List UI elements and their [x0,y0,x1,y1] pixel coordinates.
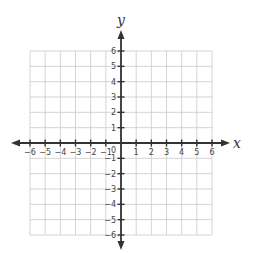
origin-label: 0 [111,146,116,155]
y-tick-label: 4 [111,78,116,87]
x-axis-label: x [233,135,241,151]
x-tick-label: 4 [179,148,184,157]
y-tick-label: −1 [104,154,116,163]
y-axis-up-arrow-icon [118,30,125,39]
x-tick-label: −5 [39,148,51,157]
x-tick-label: 1 [134,148,139,157]
x-tick-label: 6 [209,148,214,157]
y-tick-label: 5 [111,62,116,71]
y-tick-label: −3 [104,185,116,194]
y-tick-label: −4 [104,200,116,209]
x-tick-label: −2 [85,148,97,157]
y-tick-label: −6 [104,231,116,240]
x-tick-label: 3 [164,148,169,157]
x-tick-label: 5 [194,148,199,157]
y-tick-label: −2 [104,170,116,179]
y-tick-label: 3 [111,93,116,102]
coordinate-plane: −6−5−4−3−2−1123456−6−5−4−3−2−1123456 0 x… [0,0,258,253]
x-tick-label: 2 [149,148,154,157]
y-axis-down-arrow-icon [118,241,125,250]
x-tick-label: −3 [70,148,82,157]
y-axis-label: y [116,12,126,28]
x-tick-label: −6 [24,148,36,157]
y-tick-label: 1 [111,124,116,133]
y-tick-label: 6 [111,47,116,56]
x-axis-left-arrow-icon [11,140,20,147]
y-tick-label: 2 [111,108,116,117]
x-axis-right-arrow-icon [221,140,230,147]
x-tick-label: −4 [54,148,66,157]
y-tick-label: −5 [104,216,116,225]
